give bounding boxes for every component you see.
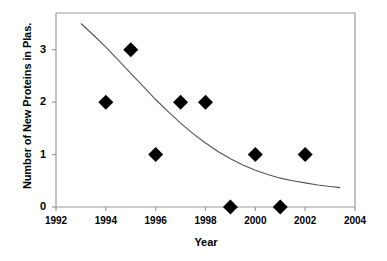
data-point-marker [298, 147, 313, 162]
data-point-marker [198, 95, 213, 110]
data-point-marker [273, 200, 288, 215]
data-point-markers [98, 42, 312, 214]
plot-canvas [0, 0, 387, 261]
data-point-marker [148, 147, 163, 162]
trendline-curve [81, 23, 340, 187]
data-point-marker [98, 95, 113, 110]
data-point-marker [173, 95, 188, 110]
chart-figure: Number of New Proteins in Plas. Year 012… [0, 0, 387, 261]
data-point-marker [248, 147, 263, 162]
data-point-marker [223, 200, 238, 215]
data-point-marker [123, 42, 138, 57]
